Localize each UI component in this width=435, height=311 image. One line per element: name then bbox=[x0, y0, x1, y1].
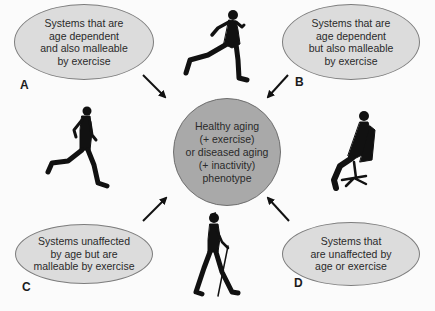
arrow-b-icon bbox=[268, 75, 288, 97]
office-chair-sitting-icon bbox=[334, 111, 375, 188]
arrow-c-icon bbox=[143, 198, 166, 221]
arrow-a-icon bbox=[143, 75, 165, 97]
arrows-and-figures bbox=[0, 0, 435, 311]
running-man-icon bbox=[186, 10, 247, 80]
diagram-canvas: Systems that are age dependent and also … bbox=[0, 0, 435, 311]
running-man-icon bbox=[48, 107, 107, 187]
arrow-d-icon bbox=[268, 198, 289, 221]
walking-pole-woman-icon bbox=[196, 212, 238, 296]
